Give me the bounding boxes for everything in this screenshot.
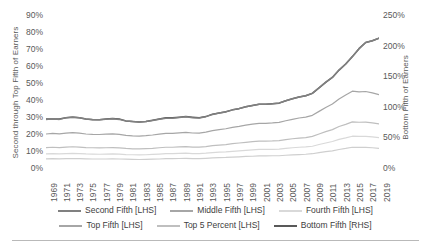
chart-lines bbox=[46, 15, 379, 168]
x-axis-tick: 1983 bbox=[143, 183, 152, 202]
legend-item[interactable]: Top Fifth [LHS] bbox=[59, 221, 142, 230]
legend-label: Second Fifth [LHS] bbox=[85, 206, 156, 215]
series-line bbox=[46, 38, 379, 122]
legend-color-swatch bbox=[157, 225, 180, 227]
x-axis-tick: 2005 bbox=[289, 183, 298, 202]
x-axis-tick: 1979 bbox=[116, 183, 125, 202]
legend-item[interactable]: Middle Fifth [LHS] bbox=[170, 206, 265, 215]
legend-item[interactable]: Bottom Fifth [RHS] bbox=[274, 221, 372, 230]
x-axis-tick: 2013 bbox=[343, 183, 352, 202]
legend-color-swatch bbox=[58, 210, 81, 212]
legend-color-swatch bbox=[59, 225, 82, 227]
chart-container: Second through Top Fifth of Earners Bott… bbox=[0, 0, 431, 251]
legend-row: Top Fifth [LHS]Top 5 Percent [LHS]Bottom… bbox=[0, 218, 431, 233]
y-axis-left-tick: 40% bbox=[26, 96, 43, 105]
x-axis-tick: 2001 bbox=[263, 183, 272, 202]
y-axis-left-tick: 30% bbox=[26, 113, 43, 122]
y-axis-left-tick: 80% bbox=[26, 28, 43, 37]
x-axis-ticks: 1969197119731975197719791981198319851987… bbox=[46, 170, 379, 204]
x-axis-tick: 1995 bbox=[223, 183, 232, 202]
x-axis-tick: 1981 bbox=[129, 183, 138, 202]
x-axis-tick: 1993 bbox=[209, 183, 218, 202]
y-axis-left-tick: 60% bbox=[26, 62, 43, 71]
x-axis-tick: 1969 bbox=[50, 183, 59, 202]
legend-color-swatch bbox=[170, 210, 193, 212]
y-axis-left-tick: 10% bbox=[26, 147, 43, 156]
legend-color-swatch bbox=[279, 210, 302, 212]
legend-item[interactable]: Second Fifth [LHS] bbox=[58, 206, 156, 215]
x-axis-tick: 1997 bbox=[236, 183, 245, 202]
y-axis-left-tick: 20% bbox=[26, 130, 43, 139]
x-axis-tick: 1987 bbox=[169, 183, 178, 202]
x-axis-tick: 1999 bbox=[249, 183, 258, 202]
legend-row: Second Fifth [LHS]Middle Fifth [LHS]Four… bbox=[0, 203, 431, 218]
y-axis-left-tick: 90% bbox=[26, 11, 43, 20]
x-axis-tick: 2003 bbox=[276, 183, 285, 202]
bottom-divider bbox=[12, 240, 419, 241]
y-axis-left-tick: 0% bbox=[31, 164, 43, 173]
series-line bbox=[46, 122, 379, 149]
y-axis-right-tick: 200% bbox=[383, 42, 405, 51]
plot-area bbox=[46, 15, 379, 168]
x-axis-tick: 1975 bbox=[89, 183, 98, 202]
x-axis-tick: 2017 bbox=[369, 183, 378, 202]
x-axis-tick: 2009 bbox=[316, 183, 325, 202]
x-axis-tick: 1971 bbox=[63, 183, 72, 202]
x-axis-tick: 2007 bbox=[303, 183, 312, 202]
legend-label: Top 5 Percent [LHS] bbox=[184, 221, 260, 230]
legend-label: Top Fifth [LHS] bbox=[86, 221, 142, 230]
x-axis-tick: 2011 bbox=[329, 184, 338, 202]
series-line bbox=[46, 147, 379, 159]
x-axis-tick: 1991 bbox=[196, 183, 205, 202]
x-axis-tick: 2019 bbox=[383, 183, 392, 202]
legend-item[interactable]: Top 5 Percent [LHS] bbox=[157, 221, 260, 230]
y-axis-left-ticks: 90%80%70%60%50%40%30%20%10%0% bbox=[16, 0, 43, 180]
y-axis-right-tick: 0% bbox=[383, 164, 395, 173]
y-axis-left-tick: 50% bbox=[26, 79, 43, 88]
chart-legend: Second Fifth [LHS]Middle Fifth [LHS]Four… bbox=[0, 203, 431, 237]
y-axis-right-ticks: 250%200%150%100%50%0% bbox=[383, 0, 413, 180]
y-axis-right-tick: 150% bbox=[383, 72, 405, 81]
x-axis-tick: 1985 bbox=[156, 183, 165, 202]
y-axis-left-tick: 70% bbox=[26, 45, 43, 54]
y-axis-right-tick: 250% bbox=[383, 11, 405, 20]
x-axis-tick: 1989 bbox=[183, 183, 192, 202]
legend-color-swatch bbox=[274, 225, 297, 227]
x-axis-tick: 1977 bbox=[103, 183, 112, 202]
legend-label: Bottom Fifth [RHS] bbox=[301, 221, 372, 230]
legend-item[interactable]: Fourth Fifth [LHS] bbox=[279, 206, 373, 215]
x-axis-tick: 2015 bbox=[356, 183, 365, 202]
y-axis-right-tick: 100% bbox=[383, 103, 405, 112]
x-axis-tick: 1973 bbox=[76, 183, 85, 202]
legend-label: Fourth Fifth [LHS] bbox=[306, 206, 373, 215]
y-axis-right-tick: 50% bbox=[383, 133, 400, 142]
legend-label: Middle Fifth [LHS] bbox=[197, 206, 265, 215]
